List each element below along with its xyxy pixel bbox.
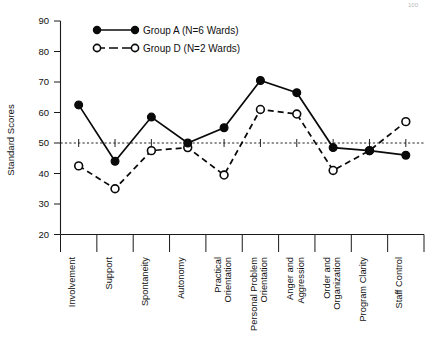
data-point-group-d	[220, 171, 228, 179]
chart-legend: Group A (N=6 Wards) Group D (N=2 Wards)	[93, 25, 240, 54]
y-tick-label: 40	[38, 168, 49, 179]
data-point-group-d	[111, 185, 119, 193]
legend-label-group-a: Group A (N=6 Wards)	[143, 25, 239, 36]
y-tick-label: 80	[38, 46, 49, 57]
data-point-group-a	[293, 89, 301, 97]
data-point-group-d	[257, 106, 265, 114]
y-tick-label: 70	[38, 76, 49, 87]
data-point-group-d	[147, 147, 155, 155]
data-point-group-a	[402, 151, 410, 159]
corner-note: 100	[408, 2, 419, 8]
y-tick-label: 50	[38, 137, 49, 148]
data-point-group-a	[75, 101, 83, 109]
y-tick-label: 60	[38, 107, 49, 118]
x-category-label: Support	[104, 257, 114, 290]
y-axis-label: Standard Scores	[5, 104, 16, 176]
x-category-label: Aggression	[296, 257, 306, 304]
x-category-label: Orientation	[259, 257, 269, 302]
y-axis-ticks: 2030405060708090	[38, 15, 60, 240]
data-point-group-a	[329, 144, 337, 152]
y-tick-label: 90	[38, 15, 49, 26]
data-point-group-a	[220, 124, 228, 132]
x-category-label: Order and	[322, 257, 332, 299]
x-category-label: Practical	[213, 257, 223, 293]
legend-entry-group-a: Group A (N=6 Wards)	[93, 25, 238, 36]
x-category-label: Organization	[332, 257, 342, 310]
chart-container: 100 Standard Scores 2030405060708090 Inv…	[0, 0, 436, 350]
legend-entry-group-d: Group D (N=2 Wards)	[93, 43, 240, 54]
data-point-group-a	[366, 147, 374, 155]
legend-marker-a-right	[131, 26, 138, 33]
x-category-label: Involvement	[67, 257, 77, 308]
data-point-group-d	[293, 110, 301, 118]
data-point-group-d	[329, 167, 337, 175]
data-point-group-a	[184, 139, 192, 147]
legend-label-group-d: Group D (N=2 Wards)	[143, 43, 240, 54]
legend-marker-d-right	[131, 44, 138, 51]
standard-scores-line-chart: 100 Standard Scores 2030405060708090 Inv…	[0, 0, 436, 350]
x-category-label: Orientation	[223, 257, 233, 302]
series-line-group-a	[79, 80, 406, 161]
data-point-group-a	[147, 113, 155, 121]
y-tick-label: 30	[38, 198, 49, 209]
series-markers-group-a	[75, 77, 410, 166]
x-category-label: Spontaneity	[140, 257, 150, 306]
x-category-label: Anger and	[285, 257, 295, 300]
data-point-group-d	[402, 118, 410, 126]
x-axis-category-labels: InvolvementSupportSpontaneityAutonomyPra…	[67, 257, 404, 331]
x-category-label: Personal Problem	[249, 257, 259, 331]
x-axis-ticks	[61, 235, 425, 253]
legend-marker-d-left	[93, 44, 100, 51]
x-category-label: Autonomy	[176, 257, 186, 299]
x-category-label: Staff Control	[394, 257, 404, 309]
data-point-group-a	[111, 157, 119, 165]
y-tick-label: 20	[38, 229, 49, 240]
data-point-group-d	[75, 162, 83, 170]
data-point-group-a	[257, 77, 265, 85]
x-category-label: Program Clarity	[358, 257, 368, 322]
legend-marker-a-left	[93, 26, 100, 33]
